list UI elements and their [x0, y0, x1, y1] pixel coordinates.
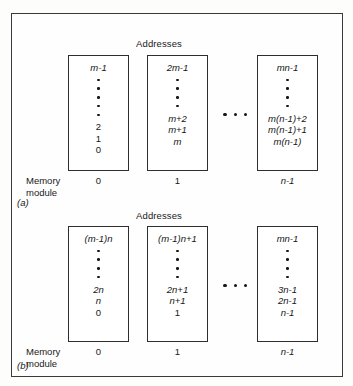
module-number-a-2: n-1 [257, 175, 318, 187]
module-box-a-0: m-1 2 1 0 [68, 55, 129, 171]
module-number-b-1: 1 [147, 346, 208, 358]
vertical-dots-b-1 [176, 247, 178, 282]
module-box-b-0: (m-1)n 2n n 0 [68, 226, 129, 342]
addresses-heading-a: Addresses [113, 38, 205, 49]
cell-bot-b-2-0: 3n-1 [278, 284, 297, 296]
panel-b: Addresses (m-1)n 2n n 0 [12, 204, 344, 378]
memory-module-label-b-line2: module [26, 358, 60, 370]
cell-bot-b-0-0: 2n [93, 284, 104, 296]
cell-bot-b-2-2: n-1 [281, 307, 295, 319]
addresses-heading-b: Addresses [113, 210, 205, 221]
cell-top-b-2-0: mn-1 [277, 233, 299, 245]
vertical-dots-a-0 [97, 76, 99, 120]
module-box-b-2: mn-1 3n-1 2n-1 n-1 [257, 226, 318, 342]
module-box-b-2-content: mn-1 3n-1 2n-1 n-1 [258, 233, 317, 318]
cell-bot-a-1-1: m+1 [168, 124, 187, 136]
cell-bot-a-2-0: m(n-1)+2 [268, 113, 307, 125]
memory-module-label-a: Memory module [26, 175, 60, 198]
cell-bot-a-1-0: m+2 [168, 113, 187, 125]
part-letter-b: (b) [17, 360, 29, 371]
cell-bot-b-1-2: 1 [175, 307, 180, 319]
memory-interleaving-figure: Addresses m-1 2 1 0 2m-1 [0, 0, 353, 386]
cell-bot-a-2-2: m(n-1) [274, 136, 302, 148]
vertical-dots-a-2 [286, 76, 288, 111]
horizontal-ellipsis-a [220, 113, 251, 116]
cell-bot-b-0-2: 0 [96, 307, 101, 319]
memory-module-label-a-line1: Memory [26, 175, 60, 187]
cell-bot-a-1-2: m [174, 136, 182, 148]
module-box-a-1: 2m-1 m+2 m+1 m [147, 55, 208, 171]
module-box-a-2: mn-1 m(n-1)+2 m(n-1)+1 m(n-1) [257, 55, 318, 171]
module-number-b-2: n-1 [257, 346, 318, 358]
vertical-dots-a-1 [176, 76, 178, 111]
memory-module-label-b: Memory module [26, 346, 60, 369]
cell-top-a-2-0: mn-1 [277, 62, 299, 74]
cell-top-a-0-0: m-1 [90, 62, 106, 74]
module-number-a-1: 1 [147, 175, 208, 187]
cell-bot-b-1-0: 2n+1 [167, 284, 188, 296]
panel-a: Addresses m-1 2 1 0 2m-1 [12, 14, 344, 204]
module-box-a-1-content: 2m-1 m+2 m+1 m [148, 62, 207, 147]
cell-top-b-0-0: (m-1)n [85, 233, 113, 245]
cell-bot-b-0-1: n [96, 295, 101, 307]
cell-bot-a-0-2: 0 [96, 144, 101, 156]
memory-module-label-b-line1: Memory [26, 346, 60, 358]
module-number-a-0: 0 [68, 175, 129, 187]
memory-module-label-a-line2: module [26, 187, 60, 199]
cell-top-b-1-0: (m-1)n+1 [158, 233, 197, 245]
cell-bot-a-0-0: 2 [96, 121, 101, 133]
figure-outer-border: Addresses m-1 2 1 0 2m-1 [11, 13, 343, 377]
module-box-b-1: (m-1)n+1 2n+1 n+1 1 [147, 226, 208, 342]
cell-bot-b-1-1: n+1 [169, 295, 185, 307]
cell-bot-b-2-1: 2n-1 [278, 295, 297, 307]
module-box-b-1-content: (m-1)n+1 2n+1 n+1 1 [148, 233, 207, 318]
cell-top-a-1-0: 2m-1 [167, 62, 189, 74]
horizontal-ellipsis-b [220, 284, 251, 287]
vertical-dots-b-0 [97, 247, 99, 282]
module-box-a-0-content: m-1 2 1 0 [69, 62, 128, 156]
cell-bot-a-0-1: 1 [96, 133, 101, 145]
module-box-b-0-content: (m-1)n 2n n 0 [69, 233, 128, 318]
cell-bot-a-2-1: m(n-1)+1 [268, 124, 307, 136]
module-box-a-2-content: mn-1 m(n-1)+2 m(n-1)+1 m(n-1) [258, 62, 317, 147]
vertical-dots-b-2 [286, 247, 288, 282]
module-number-b-0: 0 [68, 346, 129, 358]
